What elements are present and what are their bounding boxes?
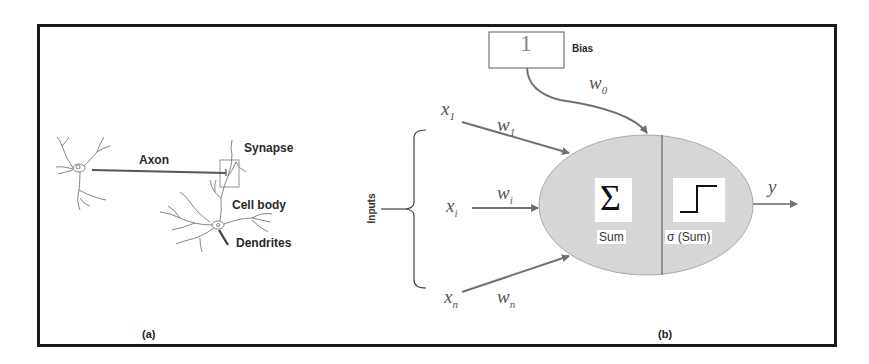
wi-label: wi: [497, 182, 513, 206]
bias-arrow: [527, 68, 647, 133]
w0-symbol: w: [589, 72, 602, 93]
axon-label: Axon: [139, 153, 169, 167]
step-box: [673, 178, 725, 222]
x1-subscript: 1: [449, 110, 455, 122]
dendrite-pointer: [219, 230, 228, 245]
x1-label: x1: [441, 98, 455, 122]
sum-label: Sum: [597, 230, 626, 244]
xn-subscript: n: [452, 298, 458, 310]
xn-label: xn: [444, 286, 458, 310]
w0-label: w0: [589, 72, 607, 96]
bias-value: 1: [520, 30, 532, 57]
axon-line: [92, 170, 226, 173]
wi-subscript: i: [510, 194, 513, 206]
dendrites-label: Dendrites: [236, 236, 291, 250]
synapse-label: Synapse: [244, 141, 293, 155]
bias-label: Bias: [572, 43, 593, 54]
activation-label: σ (Sum): [665, 230, 712, 244]
left-neuron-icon: [56, 137, 110, 210]
inputs-label: Inputs: [366, 189, 377, 229]
input-arrow-n: [462, 256, 569, 292]
input-arrow-1: [462, 122, 569, 153]
wn-label: wn: [497, 286, 515, 310]
w1-subscript: 1: [510, 126, 516, 138]
diagram-canvas: [0, 0, 869, 364]
w1-label: w1: [497, 114, 515, 138]
sigma-icon: Σ: [600, 176, 621, 220]
wn-symbol: w: [497, 286, 510, 307]
cell-body-label: Cell body: [232, 198, 286, 212]
w0-subscript: 0: [602, 84, 608, 96]
caption-b: (b): [658, 328, 672, 340]
wn-subscript: n: [510, 298, 516, 310]
output-y-label: y: [768, 176, 776, 198]
wi-symbol: w: [497, 182, 510, 203]
xi-subscript: i: [454, 207, 457, 219]
w1-symbol: w: [497, 114, 510, 135]
xi-label: xi: [446, 195, 458, 219]
caption-a: (a): [142, 328, 155, 340]
inputs-brace-icon: [404, 130, 426, 288]
